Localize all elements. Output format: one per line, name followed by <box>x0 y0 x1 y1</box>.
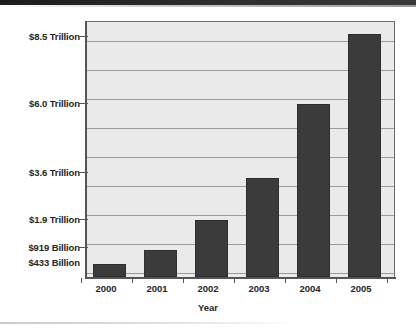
x-axis-label-2005: 2005 <box>335 283 387 294</box>
y-axis-labels: $8.5 Trillion$6.0 Trillion$3.6 Trillion$… <box>0 0 80 330</box>
x-axis-tick <box>81 278 82 283</box>
x-axis-tick <box>336 278 337 283</box>
y-axis-label: $3.6 Trillion <box>29 167 80 178</box>
x-axis-tick <box>285 278 286 283</box>
x-axis-tick <box>132 278 133 283</box>
bar-series <box>85 21 395 277</box>
x-axis-title: Year <box>0 302 416 313</box>
x-axis-label-2002: 2002 <box>182 283 234 294</box>
y-axis-label: $8.5 Trillion <box>29 31 80 42</box>
y-axis-label: $919 Billion <box>28 242 80 253</box>
x-axis-label-2001: 2001 <box>131 283 183 294</box>
y-axis-tick <box>79 36 88 37</box>
bar-2000 <box>93 264 126 277</box>
bar-2001 <box>144 250 177 277</box>
y-axis-tick <box>79 172 88 173</box>
x-axis-label-2004: 2004 <box>284 283 336 294</box>
bar-2005 <box>348 34 381 277</box>
y-axis-tick <box>79 247 88 248</box>
bar-2002 <box>195 220 228 277</box>
y-axis-label: $6.0 Trillion <box>29 98 80 109</box>
x-axis-label-2000: 2000 <box>80 283 132 294</box>
y-axis-tick <box>79 219 88 220</box>
x-axis-tick <box>387 278 388 283</box>
bar-chart: $8.5 Trillion$6.0 Trillion$3.6 Trillion$… <box>0 0 416 330</box>
y-axis-label: $1.9 Trillion <box>29 214 80 225</box>
bar-2003 <box>246 178 279 277</box>
bar-2004 <box>297 104 330 277</box>
y-axis-label: $433 Billion <box>28 257 80 268</box>
x-axis-tick <box>234 278 235 283</box>
x-axis-tick <box>183 278 184 283</box>
x-axis-label-2003: 2003 <box>233 283 285 294</box>
y-axis-tick <box>79 103 88 104</box>
